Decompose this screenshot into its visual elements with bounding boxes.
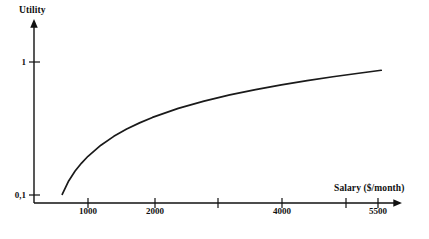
- y-tick-label-0-1: 0,1: [3, 190, 26, 200]
- x-axis-title: Salary ($/month): [334, 183, 404, 193]
- y-tick-label-1: 1: [10, 57, 26, 67]
- y-axis-title: Utility: [19, 5, 46, 15]
- x-tick-label-5500: 5500: [369, 206, 387, 216]
- x-tick-label-1000: 1000: [79, 206, 97, 216]
- chart-figure: Utility Salary ($/month) 1 0,1 1000 2000…: [0, 0, 429, 239]
- x-tick-label-4000: 4000: [273, 206, 291, 216]
- x-tick-label-2000: 2000: [146, 206, 164, 216]
- chart-plot-area: [0, 0, 429, 239]
- utility-curve: [62, 70, 381, 194]
